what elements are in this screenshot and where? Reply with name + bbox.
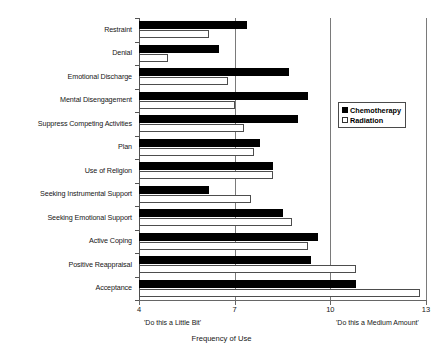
y-tick-mark	[135, 136, 139, 137]
y-tick-mark	[135, 253, 139, 254]
category-label: Emotional Discharge	[0, 73, 132, 81]
x-tick-label: 13	[422, 305, 430, 314]
bar-chemotherapy	[139, 21, 247, 29]
empty-square-icon	[342, 117, 348, 123]
y-tick-mark	[135, 277, 139, 278]
bar-chemotherapy	[139, 186, 209, 194]
category-label: Mental Disengagement	[0, 96, 132, 104]
y-tick-mark	[135, 206, 139, 207]
bar-chemotherapy	[139, 233, 318, 241]
bar-radiation	[139, 101, 235, 109]
y-tick-mark	[135, 183, 139, 184]
x-tick-label: 7	[233, 305, 237, 314]
bar-radiation	[139, 124, 244, 132]
category-label: Active Coping	[0, 237, 132, 245]
filled-square-icon	[342, 107, 348, 113]
category-label: Acceptance	[0, 284, 132, 292]
x-axis-title: Frequency of Use	[0, 334, 443, 344]
bar-chemotherapy	[139, 280, 356, 288]
category-label: Restraint	[0, 26, 132, 34]
bar-chemotherapy	[139, 68, 289, 76]
category-label: Use of Religion	[0, 167, 132, 175]
category-label: Denial	[0, 49, 132, 57]
bar-radiation	[139, 242, 308, 250]
category-label: Suppress Competing Activities	[0, 120, 132, 128]
bar-radiation	[139, 265, 356, 273]
bar-chemotherapy	[139, 162, 273, 170]
chart-legend: ChemotherapyRadiation	[338, 102, 406, 128]
bar-radiation	[139, 218, 292, 226]
bar-radiation	[139, 195, 251, 203]
bar-radiation	[139, 77, 228, 85]
axis-anchor-low: 'Do this a Little Bit'	[144, 318, 201, 327]
y-tick-mark	[135, 230, 139, 231]
bar-chemotherapy	[139, 45, 219, 53]
plot-area	[139, 18, 426, 300]
legend-entry: Radiation	[342, 115, 401, 125]
y-tick-mark	[135, 18, 139, 19]
bar-chemotherapy	[139, 256, 311, 264]
x-tick-label: 10	[326, 305, 334, 314]
gridline	[426, 18, 427, 300]
y-tick-mark	[135, 159, 139, 160]
x-axis-line	[139, 300, 427, 301]
x-tick-label: 4	[137, 305, 141, 314]
bar-radiation	[139, 289, 420, 297]
category-axis-labels: RestraintDenialEmotional DischargeMental…	[0, 18, 136, 300]
category-label: Plan	[0, 143, 132, 151]
bar-radiation	[139, 171, 273, 179]
y-tick-mark	[135, 65, 139, 66]
legend-entry: Chemotherapy	[342, 105, 401, 115]
legend-label: Radiation	[350, 116, 383, 125]
bar-chart-figure: RestraintDenialEmotional DischargeMental…	[0, 0, 443, 353]
y-tick-mark	[135, 42, 139, 43]
y-tick-mark	[135, 89, 139, 90]
y-tick-mark	[135, 112, 139, 113]
gridline	[330, 18, 331, 300]
bar-radiation	[139, 30, 209, 38]
bar-chemotherapy	[139, 92, 308, 100]
category-label: Seeking Instrumental Support	[0, 190, 132, 198]
bar-chemotherapy	[139, 115, 298, 123]
axis-anchor-high: 'Do this a Medium Amount'	[336, 318, 419, 327]
category-label: Seeking Emotional Support	[0, 214, 132, 222]
bar-radiation	[139, 54, 168, 62]
bar-radiation	[139, 148, 254, 156]
category-label: Positive Reappraisal	[0, 261, 132, 269]
legend-label: Chemotherapy	[350, 106, 401, 115]
bar-chemotherapy	[139, 209, 283, 217]
bar-chemotherapy	[139, 139, 260, 147]
